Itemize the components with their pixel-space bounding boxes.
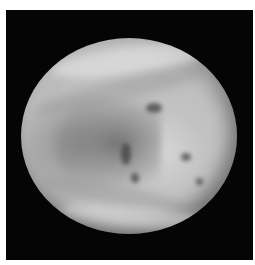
limb-darkening — [21, 38, 237, 234]
space-background — [6, 10, 253, 260]
planet-venus — [21, 38, 237, 234]
